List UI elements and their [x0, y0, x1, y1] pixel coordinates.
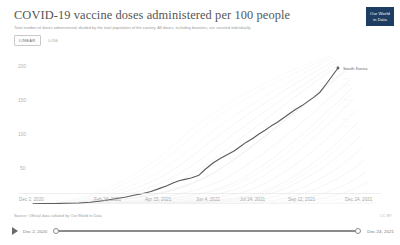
xtick-6: Dec 24, 2021	[345, 197, 373, 202]
play-triangle	[12, 227, 18, 235]
series-label-south-korea: South Korea	[343, 66, 368, 71]
svg-text:.....: .....	[343, 123, 349, 128]
play-icon[interactable]	[10, 226, 19, 236]
background-series-group-faint	[33, 56, 378, 204]
ghost-series-labels: ..... ...... .... ...... ..... .... ....…	[343, 75, 350, 128]
svg-text:......: ......	[343, 82, 350, 87]
timeline-control[interactable]: Dec 2, 2020 Dec 24, 2021	[10, 224, 394, 238]
x-axis-svg: Dec 2, 2020 Feb 24, 2021 Apr 15, 2021 Ju…	[0, 192, 400, 206]
license-note[interactable]: CC BY	[380, 213, 392, 218]
svg-text:......: ......	[343, 96, 350, 101]
chart-footer: Source: Official data collated by Our Wo…	[14, 211, 392, 220]
ytick-150: 150	[18, 97, 27, 103]
svg-text:.....: .....	[343, 75, 349, 80]
ytick-50: 50	[20, 165, 26, 171]
slider-handle-start[interactable]	[53, 228, 59, 234]
xtick-5: Sep 12, 2021	[288, 197, 316, 202]
ytick-200: 200	[18, 63, 27, 69]
xtick-4: Jul 24, 2021	[240, 197, 265, 202]
tab-linear[interactable]: LINEAR	[14, 35, 41, 46]
ytick-100: 100	[18, 131, 27, 137]
svg-text:.....: .....	[343, 103, 349, 108]
series-line-south-korea	[33, 68, 338, 204]
chart-subtitle: Total number of doses administered, divi…	[14, 25, 386, 31]
timeline-slider[interactable]	[53, 226, 361, 236]
chart-plot-area[interactable]: 200 150 100 50	[0, 52, 400, 204]
slider-track[interactable]	[57, 230, 357, 231]
series-endpoint-marker	[337, 67, 340, 70]
logo-line-2: in Data	[373, 17, 387, 22]
chart-x-axis: Dec 2, 2020 Feb 24, 2021 Apr 15, 2021 Ju…	[0, 192, 400, 206]
chart-header: COVID-19 vaccine doses administered per …	[14, 8, 386, 31]
svg-text:....: ....	[343, 116, 347, 121]
axis-scale-tabs: LINEAR LOG	[14, 35, 63, 46]
owid-chart-embed: COVID-19 vaccine doses administered per …	[0, 0, 400, 245]
timeline-end-date: Dec 24, 2021	[367, 229, 394, 234]
slider-handle-end[interactable]	[355, 228, 361, 234]
chart-svg: 200 150 100 50	[0, 52, 400, 204]
xtick-2: Apr 15, 2021	[145, 197, 172, 202]
xtick-0: Dec 2, 2020	[19, 197, 44, 202]
background-series-group	[33, 60, 368, 204]
page-title: COVID-19 vaccine doses administered per …	[14, 8, 386, 22]
xtick-1: Feb 24, 2021	[94, 197, 122, 202]
tab-log[interactable]: LOG	[44, 35, 64, 46]
source-note[interactable]: Source: Official data collated by Our Wo…	[14, 213, 102, 218]
our-world-in-data-logo[interactable]: Our World in Data	[366, 7, 394, 26]
xtick-3: Jun 4, 2021	[196, 197, 220, 202]
timeline-start-date: Dec 2, 2020	[23, 229, 47, 234]
svg-text:....: ....	[343, 89, 347, 94]
